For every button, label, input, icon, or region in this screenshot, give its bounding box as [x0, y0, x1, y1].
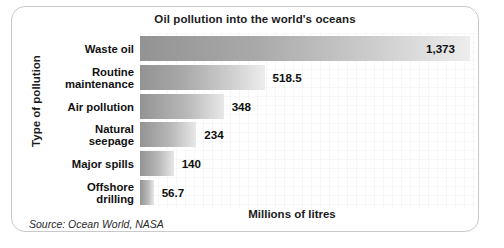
category-label-line: drilling: [40, 193, 134, 205]
category-label-line: Offshore: [40, 181, 134, 193]
bar: [140, 122, 196, 147]
category-label: Air pollution: [40, 101, 134, 113]
bar: [140, 151, 174, 176]
bar-value-label: 348: [232, 100, 251, 113]
category-label: Waste oil: [40, 43, 134, 55]
category-label-line: Routine: [40, 66, 134, 78]
bar-value-label: 1,373: [426, 42, 455, 55]
category-label: Offshoredrilling: [40, 181, 134, 205]
chart-figure: Oil pollution into the world's oceans Ty…: [0, 0, 504, 248]
category-label: Routinemaintenance: [40, 66, 134, 90]
category-label-line: maintenance: [40, 78, 134, 90]
bar: [140, 94, 224, 119]
bar: [140, 36, 470, 61]
bar-value-label: 518.5: [273, 71, 302, 84]
category-label-line: Waste oil: [40, 43, 134, 55]
bar-value-label: 140: [182, 157, 201, 170]
category-label: Major spills: [40, 158, 134, 170]
bar: [140, 65, 265, 90]
x-axis-title: Millions of litres: [222, 208, 362, 220]
category-label-line: Natural: [40, 123, 134, 135]
source-note: Source: Ocean World, NASA: [29, 218, 164, 230]
bar: [140, 180, 154, 205]
category-label-line: Air pollution: [40, 101, 134, 113]
category-label-line: seepage: [40, 135, 134, 147]
category-label-line: Major spills: [40, 158, 134, 170]
category-label: Naturalseepage: [40, 123, 134, 147]
bar-value-label: 234: [204, 128, 223, 141]
bar-value-label: 56.7: [162, 186, 185, 199]
